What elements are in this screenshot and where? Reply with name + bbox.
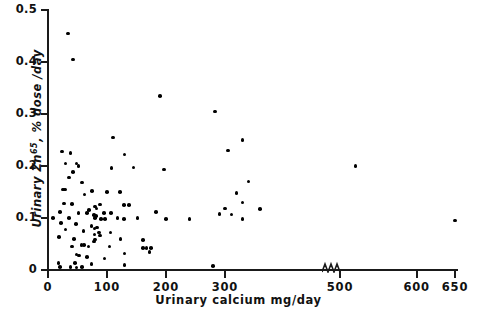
- data-point: [72, 237, 76, 241]
- y-axis-title-superscript: 65: [30, 142, 39, 154]
- data-point: [136, 216, 140, 220]
- x-tick-1: [106, 271, 108, 278]
- data-point: [57, 261, 61, 265]
- x-tick-6: [454, 271, 456, 278]
- x-tick-label-0: 0: [18, 280, 78, 294]
- data-point: [82, 229, 86, 233]
- data-point: [93, 233, 97, 237]
- data-point: [258, 207, 262, 211]
- data-point: [90, 189, 94, 193]
- data-point: [132, 166, 136, 170]
- data-point: [354, 164, 358, 168]
- data-point: [59, 221, 63, 225]
- data-point: [122, 217, 126, 221]
- y-tick-label-0: 0: [0, 262, 37, 276]
- data-point: [85, 211, 89, 215]
- x-tick-label-2: 200: [136, 280, 196, 294]
- x-tick-label-1: 100: [77, 280, 137, 294]
- data-point: [67, 176, 71, 180]
- data-point: [62, 202, 66, 206]
- data-point: [85, 255, 89, 259]
- data-point: [93, 216, 97, 220]
- data-point: [77, 211, 81, 215]
- data-point: [119, 237, 123, 241]
- data-point: [118, 190, 122, 194]
- data-point: [241, 217, 245, 221]
- data-point: [218, 212, 222, 216]
- data-point: [90, 262, 94, 266]
- data-point: [67, 216, 71, 220]
- data-point: [162, 168, 166, 172]
- data-point: [82, 243, 86, 247]
- data-point: [98, 234, 102, 238]
- data-point: [87, 245, 91, 249]
- x-axis-line: [47, 269, 458, 271]
- data-point: [164, 217, 168, 221]
- data-point: [80, 265, 84, 269]
- data-point: [141, 238, 145, 242]
- data-point: [93, 227, 97, 231]
- data-point: [123, 252, 127, 256]
- data-point: [108, 245, 112, 249]
- data-point: [226, 149, 230, 153]
- data-point: [60, 150, 64, 154]
- data-point: [77, 164, 81, 168]
- data-point: [148, 250, 152, 254]
- data-point: [64, 228, 68, 232]
- scatter-plot-figure: 00.10.20.30.40.5 0100200300500600650 Uri…: [0, 0, 477, 310]
- data-point: [102, 211, 106, 215]
- data-point: [211, 264, 215, 268]
- data-point: [69, 265, 73, 269]
- y-tick-5: [41, 9, 48, 11]
- data-point: [154, 210, 158, 214]
- y-axis-title-base: Urinary Zn: [30, 154, 44, 228]
- x-axis-title: Urinary calcium mg/day: [0, 293, 477, 307]
- y-axis-title: Urinary Zn65, % dose /day: [30, 13, 45, 263]
- data-point: [241, 201, 245, 205]
- data-point: [64, 162, 68, 166]
- data-point: [95, 207, 99, 211]
- data-point: [235, 191, 239, 195]
- data-point: [247, 180, 251, 184]
- data-point: [103, 217, 107, 221]
- data-point: [70, 245, 74, 249]
- data-point: [71, 58, 75, 62]
- data-point: [122, 203, 126, 207]
- data-point: [109, 211, 113, 215]
- data-point: [66, 32, 70, 36]
- data-point: [123, 263, 127, 267]
- data-point: [58, 265, 62, 269]
- x-tick-label-6: 650: [425, 280, 477, 294]
- data-point: [51, 216, 55, 220]
- x-tick-5: [416, 271, 418, 278]
- data-point: [63, 188, 67, 192]
- data-point: [103, 257, 107, 261]
- data-point: [80, 181, 84, 185]
- x-tick-label-3: 300: [195, 280, 255, 294]
- data-point: [69, 151, 73, 155]
- data-point: [74, 222, 78, 226]
- x-tick-3: [224, 271, 226, 278]
- data-point: [123, 153, 127, 157]
- data-point: [223, 207, 227, 211]
- x-axis-break-icon: [322, 261, 340, 273]
- data-point: [213, 110, 217, 114]
- data-point: [111, 136, 115, 140]
- y-axis-title-tail: , % dose /day: [30, 49, 44, 142]
- x-tick-label-4: 500: [310, 280, 370, 294]
- data-point: [158, 94, 162, 98]
- data-point: [92, 240, 96, 244]
- data-point: [99, 217, 103, 221]
- data-point: [73, 261, 77, 265]
- data-point: [58, 210, 62, 214]
- data-point: [71, 170, 75, 174]
- data-point: [83, 193, 87, 197]
- data-point: [188, 217, 192, 221]
- data-point: [77, 254, 81, 258]
- data-point: [110, 166, 114, 170]
- data-point: [116, 216, 120, 220]
- x-tick-0: [47, 271, 49, 278]
- x-tick-2: [165, 271, 167, 278]
- data-point: [57, 235, 61, 239]
- data-point: [109, 231, 113, 235]
